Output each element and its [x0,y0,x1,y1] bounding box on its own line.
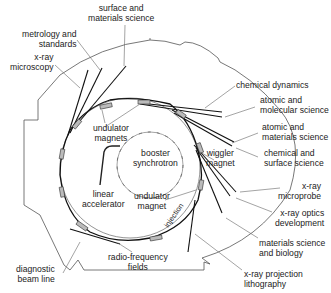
label-chemical-surface: chemical andsurface science [264,149,324,168]
label-xray-optics: x-ray opticsdevelopment [275,209,324,228]
label-rf-fields: radio-frequencyfields [108,253,168,272]
label-booster-synchrotron: boostersynchrotron [133,149,178,168]
label-materials-biology: materials scienceand biology [259,239,325,258]
label-atomic-materials: atomic andmaterials science [262,123,328,142]
label-diagnostic-beam-line: diagnosticbeam line [16,265,55,284]
label-xray-microprobe: x-raymicroprobe [278,182,321,201]
label-metrology: metrology andstandards [22,30,76,49]
label-atomic-molecular: atomic andmolecular science [260,96,329,115]
label-chemical-dynamics: chemical dynamics [236,81,309,91]
label-surface-materials: surface andmaterials science [88,4,154,23]
label-undulator-magnets: undulatormagnets [93,124,129,143]
label-linear-accelerator: linearaccelerator [82,190,125,209]
label-xray-microscopy: x-raymicroscopy [10,53,53,72]
label-xray-projection: x-ray projectionlithography [244,270,303,289]
label-undulator-magnet: undulatormagnet [134,192,170,211]
label-wiggler-magnet: wigglermagnet [206,149,235,168]
